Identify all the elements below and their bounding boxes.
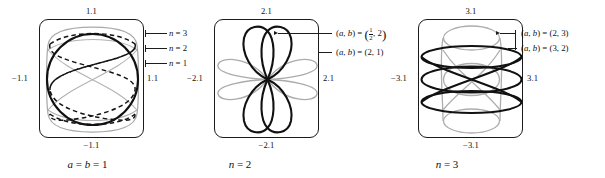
leader-arrow-a-b-half-2 xyxy=(274,31,278,35)
plot-curves-2 xyxy=(215,20,319,138)
plot-viewport-3 xyxy=(418,19,523,138)
plot-viewport-1 xyxy=(39,19,144,138)
callout-n-1: n = 1 xyxy=(169,59,187,68)
curve-a-b-half-2-mirror xyxy=(243,27,291,133)
fraction-numerator: 1 xyxy=(369,27,373,34)
leader-tick-a-b-2-1 xyxy=(318,49,319,56)
callout-n-3: n = 3 xyxy=(169,29,187,38)
axis-label-bottom-2: −2.1 xyxy=(205,141,328,150)
callout-a-b-2-3-rhs: (2, 3) xyxy=(549,28,568,38)
panel-n-equals-2: 2.1 −2.1 −2.1 2.1 (a, b) = (12, 2) (a, b… xyxy=(205,0,395,178)
caption-3-rhs: 3 xyxy=(453,158,459,170)
callout-a-b-2-3: (a, b) = (2, 3) xyxy=(521,29,569,38)
callout-a-b-half-2: (a, b) = (12, 2) xyxy=(336,27,386,41)
leader-line-a-b-3-2 xyxy=(508,48,517,49)
leader-tick-n-2 xyxy=(145,45,146,52)
leader-line-n-1 xyxy=(145,63,167,64)
plot-curves-1 xyxy=(40,20,144,138)
curve-n-3-weave-c xyxy=(48,40,137,51)
leader-line-a-b-2-1 xyxy=(318,52,332,53)
leader-line-n-3 xyxy=(145,33,167,34)
callout-n-2-eq: = xyxy=(176,43,183,53)
panel-3-caption: n = 3 xyxy=(342,158,552,170)
axis-label-bottom-3: −3.1 xyxy=(395,141,547,150)
callout-n-1-eq: = xyxy=(176,58,183,68)
leader-arrow-a-b-2-3 xyxy=(496,31,500,35)
callout-a-b-2-1-rhs: (2, 1) xyxy=(364,47,383,57)
callout-n-3-value: 3 xyxy=(183,28,187,38)
plot-curves-3 xyxy=(419,20,523,138)
callout-a-b-3-2: (a, b) = (3, 2) xyxy=(521,44,569,53)
fraction-one-half: 12 xyxy=(369,27,373,41)
callout-a-b-half-2-lhs: (a, b) xyxy=(336,28,355,38)
callout-n-3-var: n xyxy=(169,28,173,38)
leader-line-n-2 xyxy=(145,48,167,49)
axis-label-bottom-1: −1.1 xyxy=(0,141,183,150)
callout-n-3-eq: = xyxy=(176,28,183,38)
panel-2-caption: n = 2 xyxy=(145,158,335,170)
curve-n-3-weave-b xyxy=(48,50,137,110)
panel-a-equals-b-equals-1: 1.1 −1.1 −1.1 1.1 n = 3 n = 2 n = 1 a = … xyxy=(0,0,205,178)
axis-label-left-2: −2.1 xyxy=(187,74,203,83)
callout-close-paren: ) xyxy=(382,27,386,42)
callout-a-b-2-1-lhs: (a, b) xyxy=(336,47,355,57)
leader-line-a-b-2-3 xyxy=(500,33,515,34)
fraction-denominator: 2 xyxy=(369,34,373,42)
axis-label-right-2: 2.1 xyxy=(323,74,334,83)
curve-a-b-3-2 xyxy=(422,46,522,113)
axis-label-right-1: 1.1 xyxy=(147,74,158,83)
caption-1-eq1: = xyxy=(73,158,85,170)
caption-3-eq1: = xyxy=(441,158,453,170)
callout-n-1-value: 1 xyxy=(183,58,187,68)
leader-tick-a-b-2-3 xyxy=(515,30,516,50)
callout-n-2: n = 2 xyxy=(169,44,187,53)
callout-n-2-var: n xyxy=(169,43,173,53)
plot-viewport-2 xyxy=(214,19,319,138)
leader-tick-n-3 xyxy=(145,30,146,37)
callout-n-2-value: 2 xyxy=(183,43,187,53)
callout-a-b-3-2-rhs: (3, 2) xyxy=(549,43,568,53)
curve-n-2-b xyxy=(50,44,135,90)
callout-a-b-2-3-lhs: (a, b) xyxy=(521,28,540,38)
leader-line-a-b-half-2 xyxy=(278,33,332,34)
axis-label-left-1: −1.1 xyxy=(12,74,28,83)
axis-label-top-2: 2.1 xyxy=(205,7,328,16)
caption-1-eq2: = xyxy=(90,158,102,170)
caption-2-rhs: 2 xyxy=(246,158,252,170)
leader-tick-n-1 xyxy=(145,60,146,67)
axis-label-right-3: 3.1 xyxy=(527,74,538,83)
callout-a-b-2-1: (a, b) = (2, 1) xyxy=(336,48,384,57)
axis-label-top-3: 3.1 xyxy=(395,7,547,16)
caption-1-rhs: 1 xyxy=(102,158,108,170)
callout-a-b-3-2-lhs: (a, b) xyxy=(521,43,540,53)
panel-n-equals-3: 3.1 −3.1 −3.1 3.1 (a, b) = (2, 3) (a, b)… xyxy=(395,0,605,178)
lissajous-figure: 1.1 −1.1 −1.1 1.1 n = 3 n = 2 n = 1 a = … xyxy=(0,0,605,178)
axis-label-top-1: 1.1 xyxy=(0,7,183,16)
axis-label-left-3: −3.1 xyxy=(391,74,407,83)
caption-2-eq1: = xyxy=(234,158,246,170)
callout-n-1-var: n xyxy=(169,58,173,68)
